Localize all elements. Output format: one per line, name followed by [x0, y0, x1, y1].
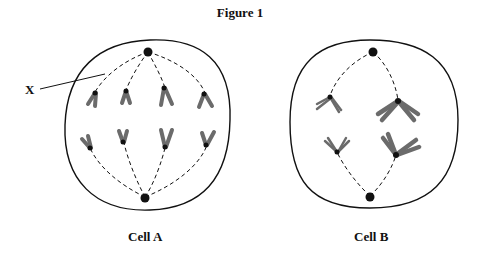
- cell-a: [40, 40, 230, 210]
- centromeres-a-top: [93, 86, 207, 97]
- figure-diagram: [0, 0, 480, 254]
- chromosomes-a-top: [88, 88, 212, 107]
- centrosome-a-bottom: [141, 194, 150, 203]
- chromosomes-a-bottom: [82, 130, 214, 148]
- centrosome-a-top: [144, 48, 153, 57]
- spindle-fibres-b: [330, 52, 398, 196]
- cell-b: [290, 40, 458, 208]
- chromosomes-b: [317, 97, 419, 155]
- centrosome-b-top: [369, 48, 378, 57]
- centromeres-a-bottom: [88, 140, 209, 151]
- cell-a-membrane: [65, 40, 230, 210]
- spindle-fibres-a: [91, 52, 207, 197]
- centrosome-b-bottom: [366, 193, 375, 202]
- cell-b-membrane: [290, 40, 458, 208]
